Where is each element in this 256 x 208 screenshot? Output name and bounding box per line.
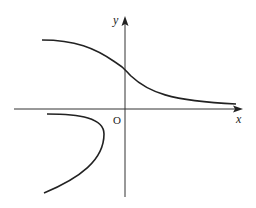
diagram-canvas: y x O: [0, 0, 256, 208]
y-axis-label: y: [112, 13, 119, 27]
upper-decreasing-curve: [42, 40, 236, 104]
origin-label: O: [113, 114, 121, 126]
lower-left-c-shaped-curve: [44, 114, 104, 193]
x-axis-label: x: [235, 112, 242, 126]
